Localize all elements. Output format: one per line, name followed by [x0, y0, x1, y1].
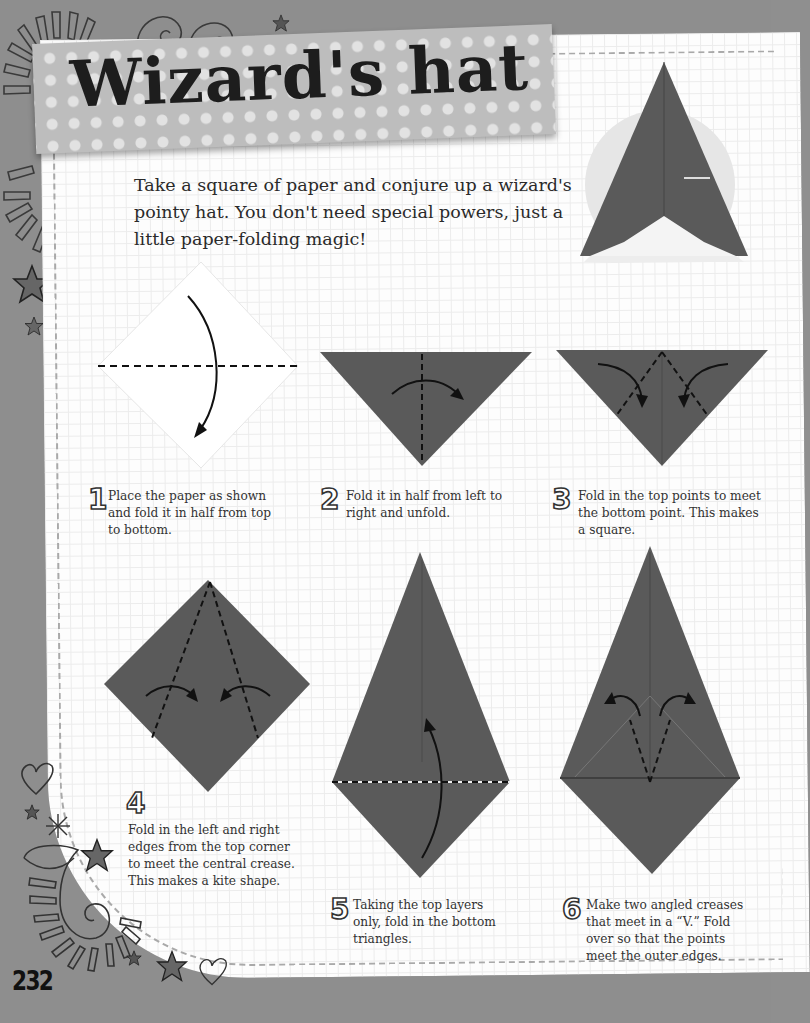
step-text-1: Place the paper as shown and fold it in … — [108, 488, 278, 539]
intro-text: Take a square of paper and conjure up a … — [134, 172, 574, 253]
step-3-diagram — [556, 350, 772, 468]
heart-icon — [16, 758, 56, 798]
step-2-diagram — [320, 352, 536, 468]
step-number-1: 1 — [88, 486, 107, 514]
page-number: 232 — [12, 965, 52, 996]
step-text-2: Fold it in half from left to right and u… — [346, 488, 536, 522]
step-text-3: Fold in the top points to meet the botto… — [578, 488, 768, 539]
step-number-5: 5 — [330, 896, 349, 924]
step-number-2: 2 — [320, 486, 339, 514]
step-number-6: 6 — [562, 896, 581, 924]
step-text-6: Make two angled creases that meet in a “… — [586, 897, 756, 965]
step-number-4: 4 — [126, 790, 145, 818]
star-icon — [24, 804, 40, 820]
step-text-5: Taking the top layers only, fold in the … — [353, 897, 503, 948]
step-5-diagram — [332, 552, 514, 880]
star-icon — [24, 316, 44, 336]
step-6-diagram — [560, 546, 748, 876]
finished-hat-image — [576, 60, 756, 270]
step-number-3: 3 — [552, 486, 571, 514]
step-1-diagram — [96, 262, 306, 472]
star-icon — [156, 950, 188, 982]
star-icon — [126, 950, 142, 966]
step-4-diagram — [102, 578, 314, 794]
asterisk-icon — [46, 814, 70, 838]
star-icon — [272, 14, 290, 32]
heart-icon — [194, 954, 230, 988]
